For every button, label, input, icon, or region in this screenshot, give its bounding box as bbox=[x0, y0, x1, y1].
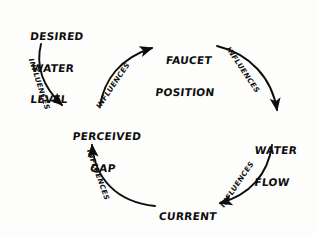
node-line: FAUCET bbox=[156, 55, 221, 66]
node-faucet-position: FAUCET POSITION bbox=[150, 34, 224, 118]
node-line: GAP bbox=[63, 163, 142, 174]
node-line: PERCEIVED bbox=[67, 131, 146, 142]
node-line: DESIRED bbox=[17, 31, 96, 42]
node-line: WATER bbox=[13, 63, 92, 74]
node-line: WATER bbox=[246, 145, 305, 156]
node-line: CURRENT bbox=[153, 211, 222, 222]
node-line: POSITION bbox=[152, 87, 217, 98]
node-current-water-level: CURRENT WATER LEVEL bbox=[143, 190, 225, 237]
diagram-canvas: DESIRED WATER LEVEL FAUCET POSITION WATE… bbox=[0, 0, 317, 237]
node-line: FLOW bbox=[242, 177, 301, 188]
node-desired-water-level: DESIRED WATER LEVEL bbox=[7, 10, 99, 126]
